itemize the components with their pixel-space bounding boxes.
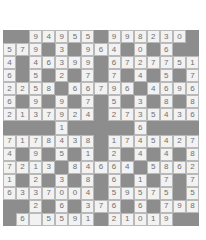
digit-cell[interactable]: 5 bbox=[29, 69, 42, 82]
digit-cell[interactable]: 8 bbox=[134, 30, 147, 43]
digit-cell[interactable]: 0 bbox=[134, 213, 147, 226]
digit-cell[interactable]: 6 bbox=[55, 200, 68, 213]
digit-cell[interactable]: 4 bbox=[160, 135, 173, 148]
digit-cell[interactable]: 3 bbox=[55, 43, 68, 56]
digit-cell[interactable]: 0 bbox=[173, 30, 186, 43]
digit-cell[interactable]: 7 bbox=[186, 135, 199, 148]
digit-cell[interactable]: 2 bbox=[55, 69, 68, 82]
digit-cell[interactable]: 7 bbox=[147, 56, 160, 69]
digit-cell[interactable]: 5 bbox=[173, 56, 186, 69]
digit-cell[interactable]: 7 bbox=[160, 56, 173, 69]
digit-cell[interactable]: 2 bbox=[29, 174, 42, 187]
digit-cell[interactable]: 1 bbox=[29, 161, 42, 174]
digit-cell[interactable]: 6 bbox=[81, 82, 94, 95]
digit-cell[interactable]: 1 bbox=[108, 135, 121, 148]
digit-cell[interactable]: 4 bbox=[134, 148, 147, 161]
digit-cell[interactable]: 3 bbox=[160, 30, 173, 43]
digit-cell[interactable]: 7 bbox=[42, 187, 55, 200]
digit-cell[interactable]: 7 bbox=[3, 161, 16, 174]
digit-cell[interactable]: 5 bbox=[160, 69, 173, 82]
digit-cell[interactable]: 3 bbox=[16, 187, 29, 200]
digit-cell[interactable]: 6 bbox=[42, 56, 55, 69]
digit-cell[interactable]: 6 bbox=[134, 121, 147, 134]
digit-cell[interactable]: 4 bbox=[134, 135, 147, 148]
digit-cell[interactable]: 6 bbox=[121, 82, 134, 95]
digit-cell[interactable]: 6 bbox=[173, 161, 186, 174]
digit-cell[interactable]: 7 bbox=[16, 43, 29, 56]
digit-cell[interactable]: 5 bbox=[68, 30, 81, 43]
digit-cell[interactable]: 9 bbox=[160, 213, 173, 226]
digit-cell[interactable]: 3 bbox=[55, 56, 68, 69]
digit-cell[interactable]: 9 bbox=[29, 95, 42, 108]
digit-cell[interactable]: 3 bbox=[173, 108, 186, 121]
digit-cell[interactable]: 9 bbox=[108, 82, 121, 95]
digit-cell[interactable]: 5 bbox=[55, 213, 68, 226]
digit-cell[interactable]: 9 bbox=[55, 30, 68, 43]
digit-cell[interactable]: 0 bbox=[68, 187, 81, 200]
digit-cell[interactable]: 3 bbox=[134, 95, 147, 108]
digit-cell[interactable]: 1 bbox=[186, 56, 199, 69]
digit-cell[interactable]: 5 bbox=[3, 43, 16, 56]
digit-cell[interactable]: 9 bbox=[29, 43, 42, 56]
digit-cell[interactable]: 2 bbox=[16, 161, 29, 174]
digit-cell[interactable]: 6 bbox=[108, 161, 121, 174]
digit-cell[interactable]: 7 bbox=[186, 69, 199, 82]
digit-cell[interactable]: 6 bbox=[94, 43, 107, 56]
digit-cell[interactable]: 4 bbox=[160, 148, 173, 161]
digit-cell[interactable]: 4 bbox=[121, 161, 134, 174]
digit-cell[interactable]: 2 bbox=[29, 200, 42, 213]
digit-cell[interactable]: 5 bbox=[186, 187, 199, 200]
digit-cell[interactable]: 5 bbox=[108, 187, 121, 200]
digit-cell[interactable]: 7 bbox=[108, 69, 121, 82]
digit-cell[interactable]: 5 bbox=[160, 187, 173, 200]
digit-cell[interactable]: 4 bbox=[3, 56, 16, 69]
digit-cell[interactable]: 1 bbox=[134, 174, 147, 187]
digit-cell[interactable]: 4 bbox=[81, 108, 94, 121]
digit-cell[interactable]: 2 bbox=[186, 161, 199, 174]
digit-cell[interactable]: 4 bbox=[42, 30, 55, 43]
digit-cell[interactable]: 7 bbox=[160, 174, 173, 187]
digit-cell[interactable]: 7 bbox=[121, 135, 134, 148]
digit-cell[interactable]: 5 bbox=[147, 161, 160, 174]
digit-cell[interactable]: 9 bbox=[68, 56, 81, 69]
digit-cell[interactable]: 8 bbox=[186, 95, 199, 108]
digit-cell[interactable]: 7 bbox=[29, 135, 42, 148]
digit-cell[interactable]: 5 bbox=[29, 82, 42, 95]
digit-cell[interactable]: 5 bbox=[42, 213, 55, 226]
digit-cell[interactable]: 2 bbox=[108, 108, 121, 121]
digit-cell[interactable]: 8 bbox=[160, 95, 173, 108]
digit-cell[interactable]: 9 bbox=[81, 56, 94, 69]
digit-cell[interactable]: 6 bbox=[94, 161, 107, 174]
digit-cell[interactable]: 8 bbox=[81, 174, 94, 187]
digit-cell[interactable]: 9 bbox=[173, 82, 186, 95]
digit-cell[interactable]: 4 bbox=[160, 108, 173, 121]
digit-cell[interactable]: 1 bbox=[55, 121, 68, 134]
digit-cell[interactable]: 2 bbox=[173, 135, 186, 148]
digit-cell[interactable]: 9 bbox=[55, 108, 68, 121]
digit-cell[interactable]: 9 bbox=[68, 213, 81, 226]
digit-cell[interactable]: 0 bbox=[134, 43, 147, 56]
digit-cell[interactable]: 6 bbox=[108, 174, 121, 187]
digit-cell[interactable]: 6 bbox=[160, 82, 173, 95]
digit-cell[interactable]: 0 bbox=[55, 187, 68, 200]
digit-cell[interactable]: 4 bbox=[147, 82, 160, 95]
digit-cell[interactable]: 6 bbox=[186, 108, 199, 121]
digit-cell[interactable]: 5 bbox=[55, 148, 68, 161]
digit-cell[interactable]: 5 bbox=[134, 187, 147, 200]
digit-cell[interactable]: 8 bbox=[81, 135, 94, 148]
digit-cell[interactable]: 5 bbox=[108, 95, 121, 108]
digit-cell[interactable]: 1 bbox=[16, 135, 29, 148]
digit-cell[interactable]: 2 bbox=[68, 108, 81, 121]
digit-cell[interactable]: 7 bbox=[94, 200, 107, 213]
digit-cell[interactable]: 4 bbox=[81, 161, 94, 174]
digit-cell[interactable]: 3 bbox=[55, 174, 68, 187]
digit-cell[interactable]: 3 bbox=[134, 108, 147, 121]
digit-cell[interactable]: 7 bbox=[121, 108, 134, 121]
digit-cell[interactable]: 2 bbox=[108, 213, 121, 226]
digit-cell[interactable]: 7 bbox=[160, 200, 173, 213]
digit-cell[interactable]: 5 bbox=[147, 135, 160, 148]
digit-cell[interactable]: 9 bbox=[121, 30, 134, 43]
digit-cell[interactable]: 2 bbox=[16, 82, 29, 95]
digit-cell[interactable]: 7 bbox=[42, 108, 55, 121]
digit-cell[interactable]: 3 bbox=[81, 200, 94, 213]
